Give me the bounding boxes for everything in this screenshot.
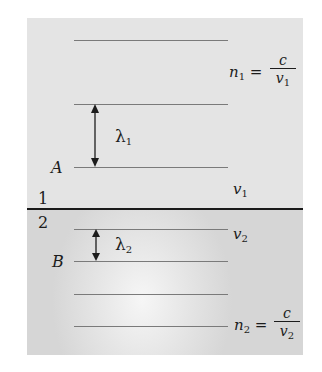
- fraction-numerator: c: [283, 306, 291, 321]
- fraction-denominator: v1: [276, 69, 290, 88]
- wavelength-2-double-arrow-icon: [90, 229, 102, 262]
- refractive-index-1-formula-lhs: n1 =: [229, 65, 262, 82]
- fraction-numerator: c: [279, 53, 287, 68]
- refractive-index-2-formula-lhs: n2 =: [234, 318, 267, 335]
- interface-boundary-line: [27, 208, 303, 210]
- point-b-label: B: [52, 254, 64, 270]
- point-a-label: A: [51, 160, 63, 176]
- wavefront-line-medium-1: [74, 40, 228, 41]
- speed-1-label: v1: [233, 182, 248, 199]
- medium-2-number-label: 2: [38, 215, 48, 231]
- medium-1-region: [27, 18, 303, 210]
- wavelength-1-double-arrow-icon: [89, 104, 101, 168]
- wavelength-1-label: λ1: [115, 128, 132, 147]
- wavelength-2-label: λ2: [115, 236, 132, 255]
- refractive-index-1-fraction: c v1: [270, 53, 296, 88]
- speed-2-label: v2: [233, 227, 248, 244]
- wavefront-line-medium-2: [74, 294, 228, 295]
- fraction-denominator: v2: [280, 322, 294, 341]
- wavefront-line-medium-2: [74, 326, 228, 327]
- medium-1-number-label: 1: [38, 191, 48, 207]
- refractive-index-2-fraction: c v2: [274, 306, 300, 341]
